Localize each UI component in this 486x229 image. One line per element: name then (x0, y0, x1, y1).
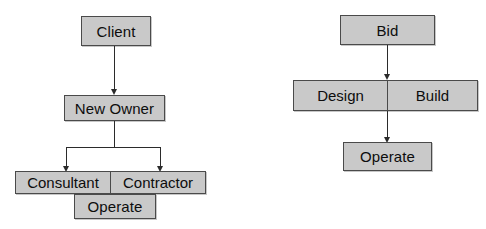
node-operate-right: Operate (343, 142, 432, 171)
node-design-build-row: Design Build (293, 80, 478, 111)
connector-branch-to-consultant (66, 147, 67, 168)
connector-branch-to-contractor (160, 147, 161, 168)
node-operate-left-label: Operate (88, 199, 143, 214)
connector-bid-to-design-build (387, 45, 388, 77)
node-client-label: Client (97, 24, 136, 39)
node-contractor: Contractor (111, 172, 205, 193)
node-build-label: Build (416, 88, 449, 103)
node-consultant-label: Consultant (27, 175, 99, 190)
node-operate-right-label: Operate (360, 149, 415, 164)
node-bid-label: Bid (377, 23, 399, 38)
connector-branch-bar (66, 147, 161, 148)
node-design-label: Design (317, 88, 364, 103)
node-consultant: Consultant (16, 172, 111, 193)
node-new-owner: New Owner (64, 95, 165, 121)
diagram-canvas: Client New Owner Consultant Contractor O… (0, 0, 486, 229)
connector-client-to-new-owner (114, 46, 115, 90)
node-bid: Bid (340, 15, 435, 45)
node-build: Build (388, 81, 477, 110)
node-client: Client (81, 16, 151, 46)
connector-new-owner-stem (114, 121, 115, 148)
node-consultant-contractor-row: Consultant Contractor (15, 171, 206, 194)
node-design: Design (294, 81, 388, 110)
node-new-owner-label: New Owner (75, 101, 154, 116)
node-contractor-label: Contractor (123, 175, 193, 190)
connector-design-build-to-operate (387, 111, 388, 140)
node-operate-left: Operate (74, 194, 156, 219)
